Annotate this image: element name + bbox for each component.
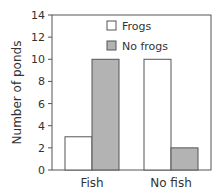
bar-fish-frogs [65, 137, 92, 170]
y-tick-label: 4 [38, 120, 45, 133]
legend-label: No frogs [122, 40, 168, 53]
bar-no-fish-frogs [144, 59, 171, 170]
plot-area: 02468101214Number of pondsFishNo fishFro… [10, 9, 211, 190]
y-axis-label: Number of ponds [10, 41, 24, 145]
y-tick-label: 6 [38, 98, 45, 111]
y-tick-label: 10 [31, 53, 45, 66]
y-tick-label: 12 [31, 31, 45, 44]
x-tick-label: No fish [150, 176, 192, 190]
y-tick-label: 2 [38, 142, 45, 155]
legend-label: Frogs [122, 20, 152, 33]
bar-chart: 02468101214Number of pondsFishNo fishFro… [0, 0, 222, 196]
y-tick-label: 14 [31, 9, 45, 22]
y-tick-label: 8 [38, 75, 45, 88]
x-tick-label: Fish [80, 176, 103, 190]
y-tick-label: 0 [38, 164, 45, 177]
legend-swatch [107, 41, 116, 50]
bar-no-fish-no-frogs [171, 148, 198, 170]
bar-fish-no-frogs [92, 59, 119, 170]
legend-swatch [107, 21, 116, 30]
